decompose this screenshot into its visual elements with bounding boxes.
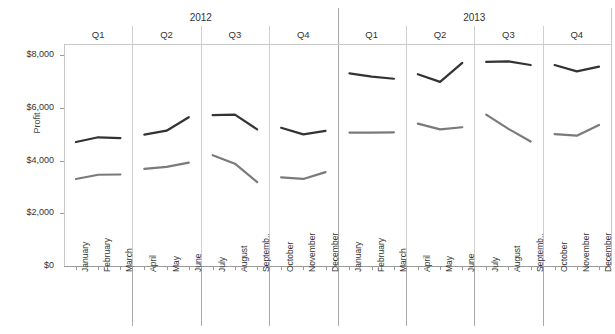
line-series-dark bbox=[349, 73, 393, 78]
line-series-gray bbox=[418, 124, 462, 130]
line-series-dark bbox=[418, 63, 462, 82]
line-series-gray bbox=[555, 125, 599, 136]
line-series-dark bbox=[281, 128, 325, 135]
line-series-gray bbox=[144, 163, 188, 169]
line-series-gray bbox=[486, 115, 530, 142]
line-series-dark bbox=[486, 61, 530, 65]
profit-line-chart: Profit $0$2,000$4,000$6,000$8,000 201220… bbox=[0, 0, 615, 334]
line-series-dark bbox=[144, 117, 188, 134]
line-series-dark bbox=[555, 65, 599, 71]
line-series-dark bbox=[76, 137, 120, 142]
line-series-gray bbox=[76, 174, 120, 178]
line-series-gray bbox=[281, 172, 325, 179]
data-lines bbox=[0, 0, 615, 334]
line-series-dark bbox=[213, 115, 257, 130]
line-series-gray bbox=[213, 155, 257, 182]
